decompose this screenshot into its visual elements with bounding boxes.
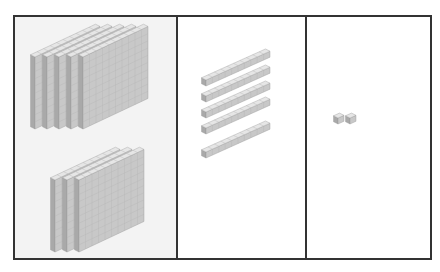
- ones-cubes: [307, 17, 432, 258]
- ones-panel: [307, 17, 430, 258]
- tens-panel: [178, 17, 307, 258]
- unit-cube: [346, 113, 357, 124]
- hundreds-panel: [15, 17, 178, 258]
- diagram-frame: [13, 15, 432, 260]
- unit-cube: [334, 113, 345, 124]
- tens-rods: [178, 17, 305, 258]
- hundreds-flats: [15, 17, 176, 258]
